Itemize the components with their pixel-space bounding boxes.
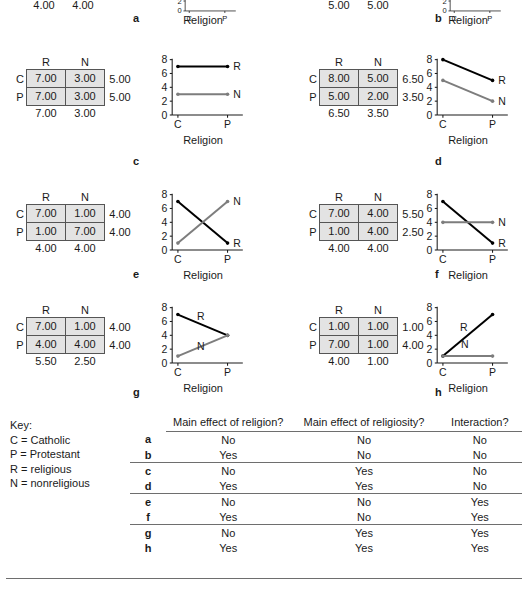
x-axis-label: Religion [423,134,513,146]
row-marginal-mean: 4.00 [105,336,136,354]
column-marginal-mean: 3.00 [66,106,105,121]
panel-a: RNC4.004.004.00P4.004.004.004.004.000246… [0,0,265,40]
corner-cell [307,56,320,70]
spacer-cell [14,106,27,121]
column-marginal-mean: 6.50 [320,106,359,121]
cell-mean: 5.00 [320,88,359,106]
svg-text:C: C [439,253,447,265]
svg-text:6: 6 [427,67,433,79]
matrix-block: RNC1.001.001.00P7.001.004.004.001.00 [307,304,428,368]
panel-b: RNC5.005.005.00P5.005.005.005.005.000246… [265,0,530,40]
summary-cell-religiosity: No [290,447,437,463]
summary-cell-letter: d [130,478,166,494]
panel-letter-c: c [133,155,139,167]
svg-text:N: N [233,88,241,100]
summary-header-1: Main effect of religion? [166,415,290,432]
corner-cell [307,304,320,318]
table-row: C7.001.004.00 [14,205,135,223]
svg-text:0: 0 [162,357,168,369]
spacer-cell [103,0,134,12]
svg-text:0: 0 [427,109,433,121]
plot-svg: 02468CPRN [166,52,270,136]
interaction-plot: 02468CPRNReligion [148,52,270,136]
column-header-n: N [359,304,398,318]
cell-mean: 1.00 [66,205,105,223]
svg-text:6: 6 [162,315,168,327]
column-header-r: R [320,191,359,205]
column-marginal-row: 7.003.00 [14,106,135,121]
column-marginal-mean: 4.00 [66,241,105,256]
row-header-c: C [14,205,27,223]
summary-cell-letter: b [130,447,166,463]
spacer-cell [105,354,136,369]
margin-corner [105,56,136,70]
panel-e: RNC7.001.004.00P1.007.004.004.004.000246… [0,183,265,296]
table-header-row: RN [14,56,135,70]
cell-mean: 7.00 [27,70,66,88]
summary-row-c: cNoYesNo [130,463,522,479]
svg-text:R: R [460,321,468,333]
svg-text:6: 6 [162,67,168,79]
legend-key: Key:C = CatholicP = ProtestantR = religi… [10,418,90,491]
summary-cell-religion: Yes [166,509,290,525]
row-header-c: C [307,70,320,88]
column-marginal-mean: 4.00 [25,0,64,12]
plot-svg: 02468CPRN [166,187,270,271]
panel-g: RNC7.001.004.00P4.004.004.005.502.500246… [0,296,265,414]
cell-mean: 7.00 [27,205,66,223]
cell-mean: 5.00 [359,70,398,88]
x-axis-label: Religion [158,134,248,146]
svg-text:2: 2 [427,230,433,242]
cell-mean: 3.00 [66,70,105,88]
panel-letter-a: a [133,12,139,24]
svg-text:P: P [224,253,231,265]
column-marginal-mean: 4.00 [359,241,398,256]
cell-means-table: RNC7.004.005.50P1.004.002.504.004.00 [307,191,428,255]
cell-mean: 1.00 [27,223,66,241]
row-header-p: P [14,336,27,354]
panel-grid: RNC4.004.004.00P4.004.004.004.004.000246… [0,0,530,415]
corner-cell [14,191,27,205]
matrix-block: RNC8.005.006.50P5.002.003.506.503.50 [307,56,428,120]
corner-cell [14,56,27,70]
panel-d: RNC8.005.006.50P5.002.003.506.503.500246… [265,48,530,183]
summary-cell-interaction: Yes [438,494,522,510]
row-header-c: C [307,318,320,336]
summary-header-3: Interaction? [438,415,522,432]
key-entry-2: R = religious [10,462,90,477]
column-marginal-mean: 2.50 [66,354,105,369]
svg-text:P: P [489,253,496,265]
table-row: C1.001.001.00 [307,318,428,336]
row-header-p: P [14,88,27,106]
table-header-row: RN [14,191,135,205]
row-marginal-mean: 4.00 [105,318,136,336]
summary-cell-interaction: Yes [438,509,522,525]
svg-text:R: R [498,74,506,86]
svg-text:4: 4 [427,81,433,93]
summary-row-f: fYesNoYes [130,509,522,525]
key-entry-0: C = Catholic [10,433,90,448]
column-marginal-row: 4.004.00 [307,241,428,256]
row-header-p: P [307,88,320,106]
svg-text:2: 2 [443,0,447,6]
cell-mean: 7.00 [27,88,66,106]
summary-cell-religiosity: No [290,432,437,448]
panel-c: RNC7.003.005.00P7.003.005.007.003.000246… [0,48,265,183]
spacer-cell [307,0,320,12]
row-header-p: P [14,223,27,241]
summary-row-e: eNoNoYes [130,494,522,510]
interaction-plot: 02468CPReligion [148,0,270,26]
summary-row-d: dYesYesNo [130,478,522,494]
svg-text:4: 4 [427,216,433,228]
spacer-cell [12,0,25,12]
column-marginal-row: 4.001.00 [307,354,428,369]
svg-text:2: 2 [178,0,182,6]
x-axis-label: Religion [158,14,248,26]
svg-text:R: R [233,237,241,249]
svg-text:C: C [439,118,447,130]
table-row: P1.007.004.00 [14,223,135,241]
summary-cell-religion: Yes [166,540,290,555]
svg-text:P: P [489,118,496,130]
table-header-row: RN [307,191,428,205]
column-marginal-mean: 4.00 [320,241,359,256]
